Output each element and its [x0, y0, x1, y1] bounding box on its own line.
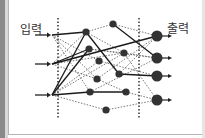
output-arrow-icon — [168, 98, 172, 102]
hidden-node — [102, 106, 109, 113]
hidden-node — [95, 57, 102, 64]
solid-connection — [52, 32, 86, 35]
input-arrow-icon — [47, 62, 51, 67]
hidden-node — [120, 49, 127, 56]
output-node — [152, 95, 163, 106]
dashed-connection — [106, 100, 157, 110]
input-label: 입력 — [20, 20, 42, 37]
output-node — [152, 53, 163, 64]
hidden-node — [86, 88, 93, 95]
hidden-node — [93, 75, 100, 82]
hidden-node — [85, 45, 92, 52]
output-arrow-icon — [168, 56, 172, 60]
dashed-connection — [86, 24, 113, 32]
dashed-connection — [113, 24, 157, 36]
output-node — [152, 31, 163, 42]
output-arrow-icon — [168, 74, 172, 78]
hidden-node — [122, 88, 129, 95]
solid-connection — [52, 32, 86, 95]
solid-connection — [119, 74, 157, 76]
hidden-node — [82, 28, 89, 35]
input-arrow-icon — [47, 93, 51, 98]
hidden-node — [109, 20, 116, 27]
dashed-connection — [52, 95, 106, 110]
output-label: 출력 — [167, 19, 189, 36]
dashed-connection — [99, 61, 157, 76]
input-arrow-icon — [47, 33, 51, 38]
output-node — [152, 71, 163, 82]
hidden-node — [115, 70, 122, 77]
